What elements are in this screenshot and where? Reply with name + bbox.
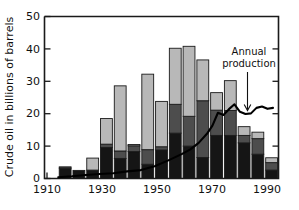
x-tick-label-1970: 1970 xyxy=(198,183,226,196)
bar-segment xyxy=(142,150,154,165)
bar-segment xyxy=(101,144,113,147)
y-tick-label-20: 20 xyxy=(26,107,40,120)
bar-segment xyxy=(266,163,278,170)
y-tick-label-30: 30 xyxy=(26,75,40,88)
bar-segment xyxy=(197,60,209,101)
bar-segment xyxy=(224,135,236,178)
bar-segment xyxy=(266,170,278,178)
bar-segment xyxy=(114,158,126,178)
bar-segment xyxy=(101,119,113,145)
bar-segment xyxy=(224,110,236,135)
bar-segment xyxy=(169,48,181,104)
annotation-line-2: production xyxy=(222,58,276,69)
bar-segment xyxy=(128,152,140,179)
bar-segment xyxy=(183,46,195,116)
bar-segment xyxy=(87,158,99,170)
annotation-line-1: Annual xyxy=(232,46,267,57)
bar-segment xyxy=(183,116,195,146)
x-tick-label-1950: 1950 xyxy=(143,183,171,196)
y-tick-label-50: 50 xyxy=(26,10,40,23)
bar-segment xyxy=(252,154,264,178)
bar-segment xyxy=(128,144,140,145)
bar-segment xyxy=(252,132,264,138)
bar-segment xyxy=(169,104,181,133)
x-tick-label-1930: 1930 xyxy=(88,183,116,196)
bar-segment xyxy=(114,86,126,151)
bar-segment xyxy=(156,147,168,150)
bar-segment xyxy=(211,135,223,178)
bar-segment xyxy=(197,101,209,158)
y-tick-label-40: 40 xyxy=(26,43,40,56)
bar-segment xyxy=(59,167,71,168)
bar-segment xyxy=(197,157,209,178)
bar-segment xyxy=(128,146,140,152)
x-tick-label-1990: 1990 xyxy=(253,183,281,196)
bar-segment xyxy=(114,151,126,158)
y-axis-title: Crude oil in billions of barrels xyxy=(3,17,16,178)
bar-segment xyxy=(211,93,223,111)
y-tick-label-10: 10 xyxy=(26,140,40,153)
bar-segment xyxy=(238,135,250,142)
bar-segment xyxy=(238,127,250,136)
chart-svg: 0 10 20 30 40 50 1910 1930 1950 1970 199… xyxy=(0,0,299,210)
bar-segment xyxy=(142,74,154,149)
x-tick-label-1910: 1910 xyxy=(33,183,61,196)
crude-oil-chart: 0 10 20 30 40 50 1910 1930 1950 1970 199… xyxy=(0,0,299,210)
bar-segment xyxy=(252,139,264,155)
bar-segment xyxy=(156,101,168,146)
bar-segment xyxy=(266,158,278,163)
bar-segment xyxy=(238,143,250,179)
